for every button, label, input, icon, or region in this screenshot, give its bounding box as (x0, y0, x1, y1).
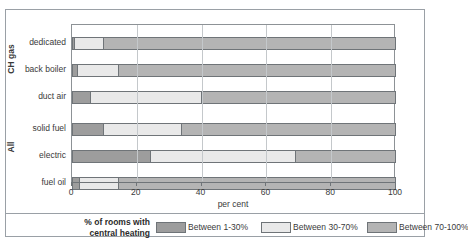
legend-label-30-70: Between 30-70% (293, 222, 358, 232)
legend-item-30-70[interactable]: Between 30-70% (261, 221, 358, 233)
legend-label-1-30: Between 1-30% (188, 222, 248, 232)
x-axis-title: per cent (71, 199, 395, 209)
tick-80 (330, 182, 331, 186)
tick-20 (136, 182, 137, 186)
bar-segment[interactable] (104, 37, 396, 50)
tick-label-0: 0 (69, 187, 74, 197)
category-label-duct-air: duct air (4, 91, 66, 101)
tick-0 (71, 182, 72, 186)
bar-rows (72, 25, 394, 181)
legend-item-1-30[interactable]: Between 1-30% (156, 221, 248, 233)
stacked-bar (72, 91, 396, 104)
bar-row[interactable] (72, 91, 394, 104)
legend-title-line2: central heating (90, 228, 150, 238)
x-axis-line (71, 182, 395, 183)
gridline-80 (331, 25, 332, 181)
bar-segment[interactable] (72, 123, 104, 136)
bar-segment[interactable] (119, 177, 396, 190)
bar-segment[interactable] (151, 150, 295, 163)
tick-100 (395, 182, 396, 186)
bar-row[interactable] (72, 123, 394, 136)
tick-label-100: 100 (388, 187, 402, 197)
bar-segment[interactable] (202, 91, 396, 104)
stacked-bar (72, 177, 396, 190)
legend: % of rooms with central heating Between … (6, 213, 424, 237)
stacked-bar (72, 64, 396, 77)
bar-segment[interactable] (91, 91, 201, 104)
gridline-60 (266, 25, 267, 181)
category-label-dedicated: dedicated (4, 37, 66, 47)
tick-40 (201, 182, 202, 186)
legend-title-line1: % of rooms with (84, 217, 150, 227)
bar-row[interactable] (72, 177, 394, 190)
bar-segment[interactable] (72, 150, 151, 163)
bar-segment[interactable] (104, 123, 182, 136)
legend-item-70-100[interactable]: Between 70-100% (367, 221, 468, 233)
stacked-bar (72, 123, 396, 136)
category-label-fuel-oil: fuel oil (4, 177, 66, 187)
legend-swatch-1-30 (156, 222, 186, 233)
category-label-solid-fuel: solid fuel (4, 123, 66, 133)
bar-segment[interactable] (119, 64, 396, 77)
bar-segment[interactable] (72, 91, 91, 104)
bar-segment[interactable] (78, 64, 119, 77)
category-label-back-boiler: back boiler (4, 64, 66, 74)
gridline-40 (202, 25, 203, 181)
tick-label-20: 20 (131, 187, 140, 197)
gridline-20 (137, 25, 138, 181)
legend-swatch-70-100 (367, 222, 397, 233)
cut-off-title (0, 0, 433, 8)
category-label-electric: electric (4, 150, 66, 160)
tick-60 (265, 182, 266, 186)
bar-row[interactable] (72, 150, 394, 163)
category-axis: CH gas All dedicatedback boilerduct airs… (0, 24, 66, 182)
bar-segment[interactable] (75, 37, 104, 50)
tick-label-40: 40 (196, 187, 205, 197)
legend-swatch-30-70 (261, 222, 291, 233)
stacked-bar (72, 37, 396, 50)
bar-segment[interactable] (296, 150, 396, 163)
bar-row[interactable] (72, 64, 394, 77)
bar-segment[interactable] (182, 123, 396, 136)
legend-title: % of rooms with central heating (48, 217, 150, 238)
tick-label-80: 80 (325, 187, 334, 197)
bar-row[interactable] (72, 37, 394, 50)
stacked-bar (72, 150, 396, 163)
plot-area (71, 24, 395, 182)
tick-label-60: 60 (261, 187, 270, 197)
legend-label-70-100: Between 70-100% (399, 222, 468, 232)
bar-segment[interactable] (80, 177, 119, 190)
